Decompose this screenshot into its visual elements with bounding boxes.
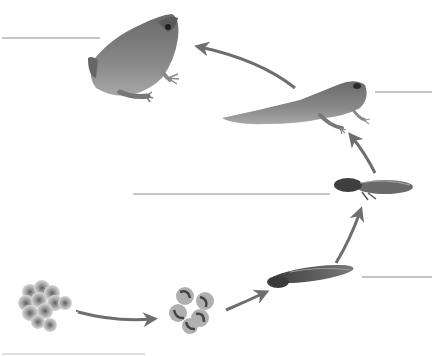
tadpole-illustration (267, 261, 355, 288)
tadpole-with-legs-illustration (334, 178, 413, 200)
frog-life-cycle-diagram (0, 0, 433, 356)
arrow-eggs-to-embryos (78, 312, 152, 320)
arrow-legged-tadpole-to-froglet (352, 137, 375, 173)
embryos-illustration (169, 287, 214, 334)
arrow-embryos-to-tadpole (226, 293, 264, 310)
froglet-illustration (222, 81, 370, 134)
arrow-tadpole-to-legged-tadpole (336, 212, 360, 263)
arrow-froglet-to-adult (200, 47, 295, 88)
adult-frog-illustration (88, 14, 179, 102)
eggs-illustration (18, 280, 78, 332)
